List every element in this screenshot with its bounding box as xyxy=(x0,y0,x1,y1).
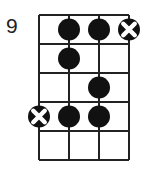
note-dot-icon xyxy=(88,19,110,41)
note-dot-icon xyxy=(88,77,110,99)
note-dot-icon xyxy=(58,48,80,70)
note-dot-icon xyxy=(58,19,80,41)
fretboard-diagram xyxy=(0,0,145,172)
note-dot-icon xyxy=(88,106,110,128)
note-dot-icon xyxy=(58,106,80,128)
